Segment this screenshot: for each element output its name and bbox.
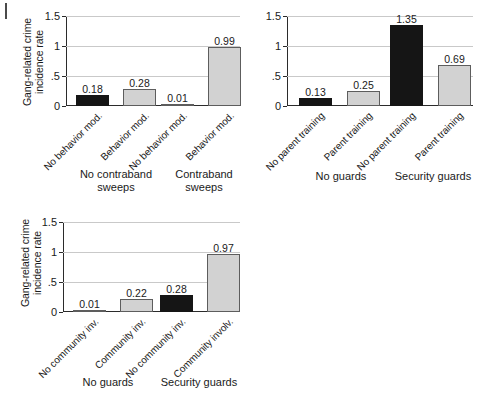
y-axis-line bbox=[63, 222, 64, 312]
bar-value-2: 0.25 bbox=[353, 79, 373, 91]
y-tick-label-1: 1 bbox=[275, 40, 281, 52]
bar-1: 0.18 bbox=[76, 95, 109, 106]
gridline-1 bbox=[287, 46, 473, 47]
bar-value-2: 0.28 bbox=[129, 77, 149, 89]
category-label-1: No community inv. bbox=[37, 316, 101, 380]
y-tick-mark-0 bbox=[283, 106, 287, 107]
bar-value-3: 1.35 bbox=[396, 13, 416, 25]
category-label-4: Behavior mod. bbox=[183, 110, 235, 162]
bar-4: 0.97 bbox=[207, 254, 240, 312]
group-label-1-line1: No guards bbox=[316, 170, 367, 183]
gridline-1-5 bbox=[66, 16, 240, 17]
bar-2: 0.25 bbox=[347, 91, 380, 106]
category-label-1: No behavior mod. bbox=[41, 110, 103, 172]
group-label-1: No guards bbox=[316, 170, 367, 183]
y-tick-mark-1 bbox=[283, 46, 287, 47]
bar-value-2: 0.22 bbox=[126, 287, 146, 299]
y-axis-title-panel-1: Gang-related crime incidence rate bbox=[22, 12, 45, 112]
y-tick-mark-1-5 bbox=[59, 222, 63, 223]
y-tick-mark-1 bbox=[62, 46, 66, 47]
bar-4: 0.99 bbox=[208, 47, 241, 106]
y-tick-mark-1-5 bbox=[62, 16, 66, 17]
group-label-1: No contraband sweeps bbox=[80, 168, 152, 194]
group-label-1: No guards bbox=[83, 376, 134, 389]
y-tick-label-0: 0 bbox=[51, 306, 57, 318]
bar-value-4: 0.69 bbox=[444, 53, 464, 65]
y-tick-label-0: 0 bbox=[275, 100, 281, 112]
bar-1: 0.13 bbox=[299, 98, 332, 106]
y-axis-title-line1: Gang-related crime bbox=[20, 213, 32, 313]
group-label-2: Security guards bbox=[161, 376, 237, 389]
y-tick-label-0-5: .5 bbox=[48, 276, 57, 288]
y-tick-label-1: 1 bbox=[51, 246, 57, 258]
y-tick-mark-0-5 bbox=[62, 76, 66, 77]
bar-2: 0.22 bbox=[120, 299, 153, 312]
bar-value-3: 0.28 bbox=[166, 283, 186, 295]
group-label-2-line1: Contraband bbox=[175, 168, 233, 181]
y-axis-line bbox=[287, 16, 288, 106]
group-label-2-line1: Security guards bbox=[161, 376, 237, 389]
y-tick-mark-1 bbox=[59, 252, 63, 253]
y-tick-label-1-5: 1.5 bbox=[45, 10, 60, 22]
y-tick-label-1: 1 bbox=[54, 40, 60, 52]
bar-1: 0.01 bbox=[73, 310, 106, 312]
y-tick-mark-1-5 bbox=[283, 16, 287, 17]
plot-area-panel-2: 1.5 1 .5 0 0.13 0.25 1.35 0.69 No paren bbox=[287, 16, 473, 106]
gridline-1-5 bbox=[287, 16, 473, 17]
group-label-2: Contraband sweeps bbox=[175, 168, 233, 194]
bar-value-1: 0.01 bbox=[79, 298, 99, 310]
plot-area-panel-3: 1.5 1 .5 0 0.01 0.22 0.28 0.97 No commu bbox=[63, 222, 240, 312]
y-axis-title-line2: incidence rate bbox=[34, 12, 46, 112]
y-tick-mark-0 bbox=[62, 106, 66, 107]
category-label-4: Parent training bbox=[413, 110, 466, 163]
panel-parent-training: 1.5 1 .5 0 0.13 0.25 1.35 0.69 No paren bbox=[245, 0, 491, 200]
y-tick-label-1-5: 1.5 bbox=[42, 216, 57, 228]
bar-value-1: 0.18 bbox=[82, 83, 102, 95]
y-tick-label-1-5: 1.5 bbox=[266, 10, 281, 22]
bar-value-3: 0.01 bbox=[167, 92, 187, 104]
group-label-2-line2: sweeps bbox=[175, 181, 233, 194]
bar-3: 0.01 bbox=[161, 104, 194, 106]
group-label-2: Security guards bbox=[395, 170, 471, 183]
y-tick-mark-0 bbox=[59, 312, 63, 313]
gridline-1-5 bbox=[63, 222, 240, 223]
group-label-2-line1: Security guards bbox=[395, 170, 471, 183]
y-tick-label-0: 0 bbox=[54, 100, 60, 112]
bar-3: 1.35 bbox=[390, 25, 423, 106]
bar-2: 0.28 bbox=[123, 89, 156, 106]
y-tick-mark-0-5 bbox=[59, 282, 63, 283]
group-label-1-line2: sweeps bbox=[80, 181, 152, 194]
plot-area-panel-1: 1.5 1 .5 0 0.18 0.28 0.01 0.99 bbox=[66, 16, 240, 106]
y-tick-mark-0-5 bbox=[283, 76, 287, 77]
bar-value-1: 0.13 bbox=[305, 86, 325, 98]
panel-contraband-sweeps: Gang-related crime incidence rate 1.5 1 … bbox=[0, 0, 245, 200]
bar-value-4: 0.97 bbox=[213, 242, 233, 254]
y-axis-title-line1: Gang-related crime bbox=[22, 12, 34, 112]
group-label-1-line1: No guards bbox=[83, 376, 134, 389]
bar-value-4: 0.99 bbox=[214, 35, 234, 47]
y-axis-line bbox=[66, 16, 67, 106]
y-tick-label-0-5: .5 bbox=[272, 70, 281, 82]
group-label-1-line1: No contraband bbox=[80, 168, 152, 181]
y-tick-label-0-5: .5 bbox=[51, 70, 60, 82]
y-axis-title-line2: incidence rate bbox=[32, 213, 44, 313]
bar-4: 0.69 bbox=[438, 65, 471, 106]
category-label-1: No parent training bbox=[264, 110, 327, 173]
panel-community-involvement: Gang-related crime incidence rate 1.5 1 … bbox=[0, 200, 250, 403]
y-axis-title-panel-3: Gang-related crime incidence rate bbox=[20, 213, 43, 313]
bar-3: 0.28 bbox=[160, 295, 193, 312]
